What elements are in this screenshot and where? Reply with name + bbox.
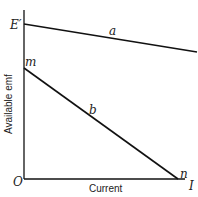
label-n: n	[180, 167, 188, 181]
line-b	[24, 68, 178, 179]
label-a: a	[109, 24, 116, 38]
label-i: I	[188, 179, 194, 193]
y-axis-label: Available emf	[3, 74, 14, 134]
label-b: b	[89, 103, 97, 117]
emf-current-diagram: E′ a m b n O I Current Available emf	[0, 0, 198, 197]
diagram-canvas: E′ a m b n O I Current Available emf	[0, 0, 198, 197]
x-axis-label: Current	[89, 183, 123, 194]
label-e-prime: E′	[9, 18, 22, 32]
label-origin: O	[13, 175, 23, 189]
label-m: m	[25, 55, 36, 69]
